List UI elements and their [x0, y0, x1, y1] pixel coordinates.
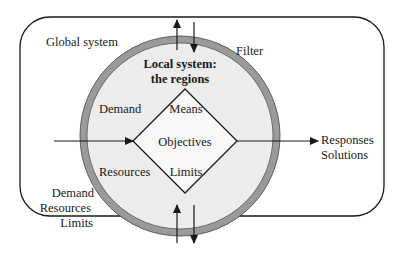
global-system-label: Global system: [46, 35, 118, 49]
input-demand-label: Demand: [52, 186, 95, 200]
objectives-label: Objectives: [158, 135, 212, 149]
inner-demand-label: Demand: [99, 102, 142, 116]
limits-label: Limits: [170, 165, 203, 179]
means-label: Means: [169, 102, 202, 116]
local-system-title-line1: Local system:: [143, 57, 216, 71]
local-system-title-line2: the regions: [151, 72, 210, 86]
filter-label: Filter: [236, 44, 264, 58]
diagram-canvas: Global system Filter Local system: the r…: [0, 0, 404, 262]
inner-resources-label: Resources: [99, 165, 151, 179]
output-solutions-label: Solutions: [321, 148, 368, 162]
input-resources-label: Resources: [40, 201, 92, 215]
input-limits-label: Limits: [60, 216, 93, 230]
output-responses-label: Responses: [321, 133, 374, 147]
